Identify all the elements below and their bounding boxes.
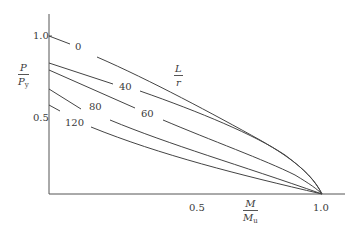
interaction-chart (0, 0, 364, 234)
curve-lr-0 (49, 36, 322, 194)
curve-label-0: 0 (75, 42, 81, 52)
lr-legend-label: L r (174, 63, 183, 88)
curve-lr-40 (49, 63, 322, 194)
curve-lr-120 (49, 105, 322, 194)
curve-label-40: 40 (119, 82, 132, 92)
y-axis-label: P Py (18, 62, 29, 89)
curve-label-60: 60 (141, 109, 154, 119)
curve-label-80: 80 (89, 102, 102, 112)
ytick-label-05: 0.5 (33, 113, 49, 123)
xtick-label-1: 1.0 (313, 203, 329, 213)
xtick-label-05: 0.5 (189, 203, 205, 213)
curve-label-120: 120 (65, 118, 84, 128)
ytick-label-1: 1.0 (33, 31, 49, 41)
curve-lr-60 (49, 70, 322, 194)
x-axis-label: M Mu (243, 198, 258, 225)
